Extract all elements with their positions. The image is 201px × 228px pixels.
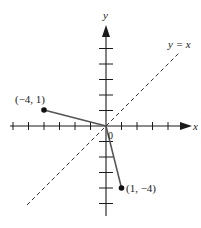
point-b-dot [119,185,125,191]
x-axis-label: x [192,120,198,132]
x-axis [10,122,192,130]
point-b-label: (1, −4) [126,182,156,195]
origin-label: 0 [108,130,113,141]
y-axis-arrow-icon [102,25,110,37]
point-a-dot [41,107,47,113]
x-axis-arrow-icon [180,122,192,130]
coordinate-plane: y x 0 y = x (−4, 1) (1, −4) [0,0,201,228]
line-y-equals-x [27,52,180,205]
y-axis-label: y [102,9,108,21]
point-a-label: (−4, 1) [15,93,45,106]
line-label: y = x [167,38,191,50]
